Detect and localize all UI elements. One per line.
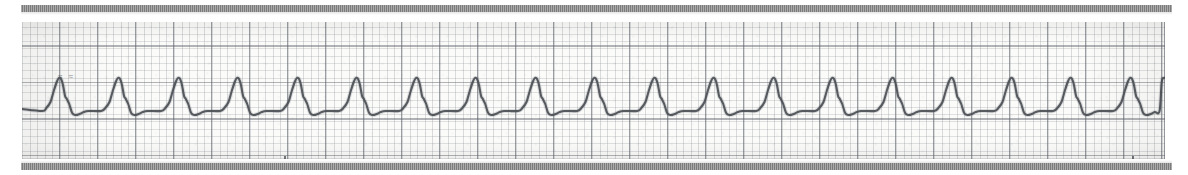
time-tick — [284, 156, 286, 159]
scan-edge-bar-bottom — [21, 163, 1172, 170]
ecg-trace-svg — [22, 22, 1165, 159]
ecg-rhythm-strip-image: ≈ ≈ — [0, 0, 1188, 175]
ecg-graph-paper: ≈ ≈ — [22, 22, 1165, 159]
scan-edge-shadow-top — [21, 12, 1172, 15]
scan-edge-bar-top — [21, 5, 1172, 12]
ecg-trace-halo — [22, 78, 1165, 115]
time-tick — [1132, 156, 1134, 159]
strip-annotation-mark: ≈ ≈ — [58, 72, 75, 81]
